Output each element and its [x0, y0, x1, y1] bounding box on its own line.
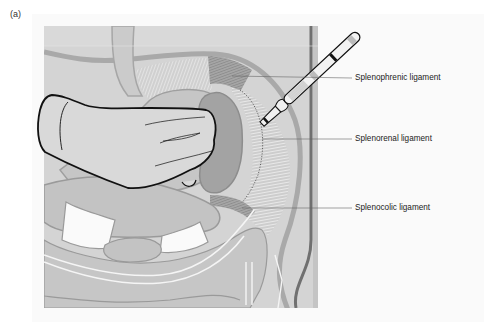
label-splenocolic-ligament: Splenocolic ligament	[355, 203, 430, 212]
anatomy-diagram	[0, 0, 488, 330]
label-splenophrenic-ligament: Splenophrenic ligament	[355, 73, 441, 82]
label-splenorenal-ligament: Splenorenal ligament	[355, 134, 432, 143]
small-intestine	[104, 238, 162, 262]
